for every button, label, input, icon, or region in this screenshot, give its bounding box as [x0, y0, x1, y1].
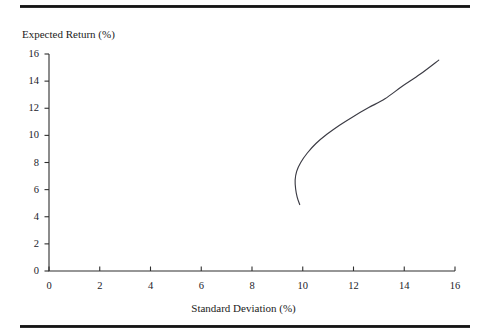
y-tick-label: 8 — [17, 157, 39, 168]
x-tick-label: 4 — [139, 280, 163, 291]
x-tick-label: 10 — [291, 280, 315, 291]
axis-lines — [49, 54, 455, 271]
y-tick-label: 4 — [17, 211, 39, 222]
y-tick-label: 2 — [17, 238, 39, 249]
y-tick-label: 6 — [17, 184, 39, 195]
y-tick-label: 10 — [17, 129, 39, 140]
efficient-frontier-curve — [295, 60, 439, 204]
y-tick-label: 16 — [17, 48, 39, 59]
y-tick-label: 14 — [17, 75, 39, 86]
x-tick-label: 0 — [37, 280, 61, 291]
y-tick-label: 0 — [17, 265, 39, 276]
axes-group — [49, 54, 455, 271]
x-tick-label: 16 — [443, 280, 467, 291]
x-tick-label: 8 — [240, 280, 264, 291]
x-tick-label: 12 — [342, 280, 366, 291]
x-tick-label: 14 — [392, 280, 416, 291]
tick-marks-group — [45, 54, 456, 271]
x-tick-label: 2 — [88, 280, 112, 291]
x-tick-label: 6 — [189, 280, 213, 291]
y-tick-label: 12 — [17, 102, 39, 113]
data-series-group — [295, 60, 439, 204]
figure-canvas: Expected Return (%) Standard Deviation (… — [0, 0, 487, 335]
